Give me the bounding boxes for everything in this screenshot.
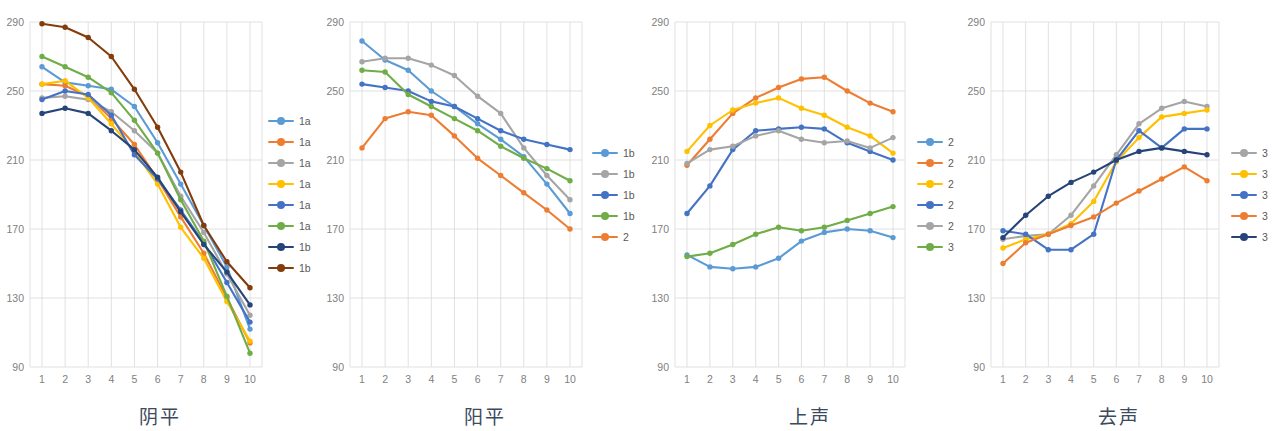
legend-item[interactable]: 3 — [1231, 226, 1268, 247]
data-point-marker — [224, 280, 229, 285]
data-point-marker — [1136, 188, 1141, 193]
legend-item[interactable]: 2 — [917, 216, 954, 237]
data-point-marker — [822, 126, 827, 131]
data-point-marker — [845, 138, 850, 143]
data-point-marker — [1068, 223, 1073, 228]
data-point-marker — [753, 133, 758, 138]
legend-item[interactable]: 2 — [592, 226, 635, 247]
legend-item[interactable]: 1b — [268, 237, 311, 258]
data-point-marker — [867, 100, 872, 105]
data-point-marker — [1204, 107, 1209, 112]
chart-legend: 1b1b1b1b2 — [592, 142, 635, 247]
legend-item[interactable]: 1b — [592, 205, 635, 226]
x-axis-tick-label: 5 — [452, 373, 458, 385]
data-point-marker — [178, 225, 183, 230]
legend-item[interactable]: 3 — [917, 237, 954, 258]
data-point-marker — [1091, 199, 1096, 204]
legend-color-swatch — [917, 200, 943, 210]
data-point-marker — [799, 76, 804, 81]
data-point-marker — [776, 95, 781, 100]
data-point-marker — [1091, 183, 1096, 188]
series-line — [359, 109, 572, 232]
data-point-marker — [452, 133, 457, 138]
y-axis-tick-label: 290 — [6, 16, 24, 28]
legend-item[interactable]: 2 — [917, 153, 954, 174]
y-axis-tick-label: 290 — [651, 16, 669, 28]
x-axis-tick-label: 6 — [799, 373, 805, 385]
legend-item-label: 1a — [299, 200, 311, 210]
legend-item[interactable]: 3 — [1231, 142, 1268, 163]
legend-item[interactable]: 1a — [268, 132, 311, 153]
legend-item[interactable]: 1a — [268, 174, 311, 195]
data-point-marker — [62, 94, 67, 99]
legend-item-label: 3 — [1262, 169, 1268, 179]
chart-panel: 901301702102502901234567891033333去声 — [955, 0, 1283, 431]
data-point-marker — [845, 226, 850, 231]
x-axis-tick-label: 10 — [244, 373, 256, 385]
legend-item[interactable]: 2 — [917, 195, 954, 216]
data-point-marker — [406, 109, 411, 114]
legend-color-swatch — [268, 116, 294, 126]
data-point-marker — [890, 204, 895, 209]
data-point-marker — [521, 190, 526, 195]
data-point-marker — [730, 266, 735, 271]
data-point-marker — [132, 142, 137, 147]
chart-legend: 222223 — [917, 132, 954, 258]
chart-caption: 去声 — [955, 402, 1283, 429]
data-point-marker — [178, 181, 183, 186]
legend-item[interactable]: 1b — [268, 258, 311, 279]
data-point-marker — [452, 73, 457, 78]
data-point-marker — [567, 197, 572, 202]
legend-item[interactable]: 1b — [592, 184, 635, 205]
series-path — [42, 67, 250, 329]
series-path — [362, 112, 570, 229]
data-point-marker — [867, 228, 872, 233]
legend-item[interactable]: 1b — [592, 142, 635, 163]
data-point-marker — [521, 156, 526, 161]
legend-item[interactable]: 2 — [917, 132, 954, 153]
y-axis-tick-label: 170 — [6, 223, 24, 235]
data-point-marker — [1136, 149, 1141, 154]
x-axis-tick-label: 4 — [1068, 373, 1074, 385]
y-axis-tick-label: 170 — [326, 223, 344, 235]
data-point-marker — [406, 56, 411, 61]
legend-item[interactable]: 3 — [1231, 205, 1268, 226]
legend-item[interactable]: 1a — [268, 111, 311, 132]
data-point-marker — [1204, 178, 1209, 183]
data-point-marker — [544, 207, 549, 212]
y-axis-tick-label: 130 — [326, 292, 344, 304]
legend-item[interactable]: 2 — [917, 174, 954, 195]
legend-color-swatch — [917, 137, 943, 147]
data-point-marker — [822, 75, 827, 80]
legend-item-label: 1b — [623, 190, 635, 200]
data-point-marker — [178, 209, 183, 214]
y-axis-tick-label: 130 — [651, 292, 669, 304]
data-point-marker — [86, 92, 91, 97]
data-point-marker — [1091, 232, 1096, 237]
tone-contour-figure: 90130170210250290123456789101a1a1a1a1a1a… — [0, 0, 1283, 431]
y-axis-tick-label: 290 — [967, 16, 985, 28]
legend-item-label: 1b — [299, 263, 311, 273]
data-point-marker — [1046, 247, 1051, 252]
legend-color-swatch — [1231, 169, 1257, 179]
legend-color-swatch — [268, 200, 294, 210]
legend-item[interactable]: 1a — [268, 216, 311, 237]
legend-item[interactable]: 1a — [268, 153, 311, 174]
series-path — [1003, 110, 1207, 248]
data-point-marker — [429, 99, 434, 104]
data-point-marker — [429, 88, 434, 93]
legend-item[interactable]: 3 — [1231, 163, 1268, 184]
legend-item[interactable]: 3 — [1231, 184, 1268, 205]
data-point-marker — [521, 137, 526, 142]
x-axis-tick-label: 9 — [1181, 373, 1187, 385]
chart-panel: 90130170210250290123456789101b1b1b1b2阳平 — [320, 0, 650, 431]
legend-item[interactable]: 1b — [592, 163, 635, 184]
data-point-marker — [247, 351, 252, 356]
x-axis-tick-label: 4 — [428, 373, 434, 385]
legend-item[interactable]: 1a — [268, 195, 311, 216]
data-point-marker — [475, 94, 480, 99]
data-point-marker — [155, 150, 160, 155]
data-point-marker — [1023, 240, 1028, 245]
legend-color-swatch — [917, 158, 943, 168]
data-point-marker — [224, 269, 229, 274]
